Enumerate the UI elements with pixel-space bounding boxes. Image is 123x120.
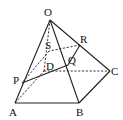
label-S: S (45, 39, 51, 51)
label-C: C (111, 65, 118, 77)
label-D: D (46, 60, 54, 72)
label-R: R (80, 33, 88, 45)
label-A: A (9, 106, 17, 118)
label-Q: Q (68, 54, 76, 66)
edge-PQ (22, 65, 68, 83)
edge-RS (49, 45, 80, 51)
label-B: B (76, 106, 83, 118)
pyramid-diagram: O A B C D P Q R S (0, 0, 123, 120)
label-O: O (44, 6, 52, 18)
edge-BC (79, 71, 110, 103)
label-P: P (13, 74, 19, 86)
